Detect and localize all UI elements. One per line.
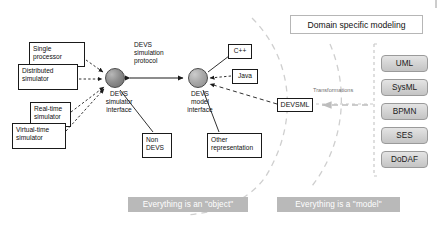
chip-bpmn: BPMN xyxy=(381,103,428,120)
box-java: Java xyxy=(232,69,258,84)
label-transformations: Transformations xyxy=(313,86,365,94)
chip-ses: SES xyxy=(381,127,428,144)
box-distributed-simulator: Distributed simulator xyxy=(18,64,78,90)
box-other-representation: Other representation xyxy=(207,133,262,158)
dsl-guide-caps xyxy=(374,44,380,176)
label-devs-simulation-protocol: DEVS simulation protocol xyxy=(134,41,180,66)
link-java xyxy=(210,76,231,78)
box-devsml: DEVSML xyxy=(277,98,313,112)
node-devs-model-interface xyxy=(188,68,208,88)
link-devsml xyxy=(210,84,277,104)
domain-specific-modeling-title: Domain specific modeling xyxy=(290,15,423,34)
label-devs-model-interface: DEVS model interface xyxy=(180,90,220,115)
link-cpp xyxy=(208,56,229,72)
label-devs-simulator-interface: DEVS simulator interface xyxy=(99,90,139,115)
box-cpp: C++ xyxy=(228,44,252,59)
box-non-devs: Non DEVS xyxy=(142,133,172,158)
chip-dodaf: DoDAF xyxy=(381,151,428,168)
box-virtual-time-simulator: Virtual-time simulator xyxy=(12,123,66,149)
banner-everything-is-an-object: Everything is an "object" xyxy=(128,197,248,212)
banner-everything-is-a-model: Everything is a "model" xyxy=(277,197,400,212)
link-single-processor xyxy=(86,60,103,72)
node-devs-simulator-interface xyxy=(105,68,125,88)
chip-uml: UML xyxy=(381,55,428,72)
diagram-canvas: Single processor Distributed simulator R… xyxy=(0,0,442,233)
model-domain-arc xyxy=(312,44,341,186)
chip-sysml: SysML xyxy=(381,79,428,96)
